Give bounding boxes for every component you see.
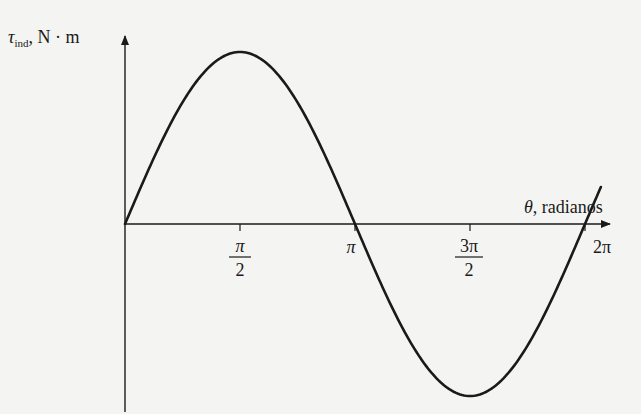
x-ticks — [240, 224, 585, 231]
torque-chart: τind, N · m θ, radianos π 2 π 3π 2 2π — [0, 0, 641, 414]
x-axis-label: θ, radianos — [524, 197, 603, 217]
tick-label-3pi-over-2: 3π 2 — [455, 236, 483, 280]
svg-text:3π: 3π — [460, 236, 478, 256]
tick-label-2pi: 2π — [593, 237, 611, 257]
tick-label-pi: π — [346, 237, 356, 257]
svg-text:2: 2 — [465, 260, 474, 280]
svg-text:π: π — [235, 236, 245, 256]
svg-text:2: 2 — [236, 260, 245, 280]
y-axis-label: τind, N · m — [8, 27, 80, 49]
tick-label-pi-over-2: π 2 — [229, 236, 251, 280]
